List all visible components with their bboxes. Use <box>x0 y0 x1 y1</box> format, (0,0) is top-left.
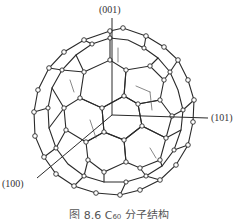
figure-caption: 图 8.6 C₆₀ 分子结构 <box>0 206 238 219</box>
axis-label-101: (101) <box>211 112 233 123</box>
axis-label-100: (100) <box>2 178 24 189</box>
c60-diagram: (001) (101) (100) 图 8.6 C₆₀ 分子结构 <box>0 0 238 219</box>
axis-label-001: (001) <box>99 4 121 15</box>
c60-molecule-drawing <box>0 0 238 219</box>
